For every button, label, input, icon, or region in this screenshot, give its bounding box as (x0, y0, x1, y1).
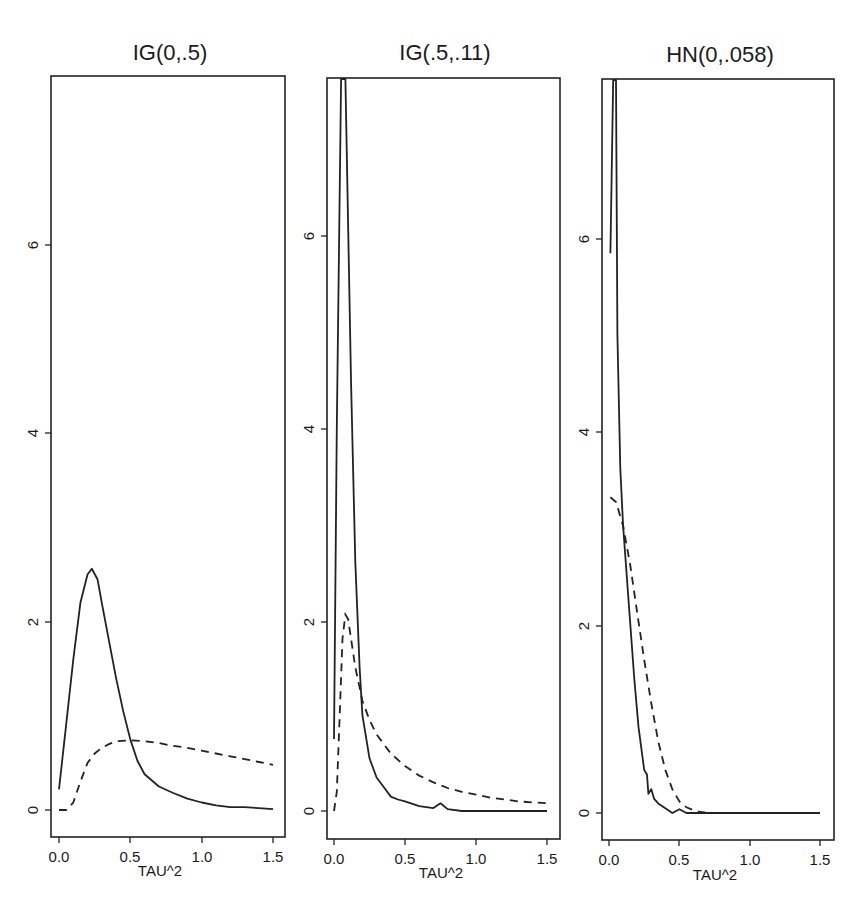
posterior-solid-line (59, 569, 273, 809)
y-axis: 0 2 4 6 (24, 241, 51, 814)
plot-frame (327, 78, 560, 839)
x-axis-label: TAU^2 (693, 866, 737, 883)
y-tick-label: 0 (575, 809, 592, 817)
panel-ig-05-011: IG(.5,.11) 0 2 4 6 0.0 0.5 1.0 1.5 TAU^2 (300, 40, 560, 881)
panel-hn-0-058: HN(0,.058) 0 2 4 6 0.0 0.5 1.0 1.5 TAU^2 (575, 42, 834, 883)
x-axis: 0.0 0.5 1.0 1.5 TAU^2 (324, 839, 558, 881)
panel-title: IG(.5,.11) (399, 40, 490, 65)
plot-frame (51, 76, 285, 837)
plot-frame (602, 79, 834, 840)
posterior-solid-line (610, 80, 820, 813)
x-tick-label: 1.5 (263, 848, 284, 865)
panel-title: HN(0,.058) (666, 42, 774, 67)
posterior-solid-line (334, 79, 547, 811)
figure-canvas: IG(0,.5) 0 2 4 6 0.0 0.5 1.0 1.5 TAU^2 I… (0, 0, 860, 914)
y-tick-label: 2 (24, 618, 41, 626)
x-tick-label: 1.0 (740, 851, 761, 868)
y-tick-label: 4 (300, 425, 317, 433)
y-tick-label: 6 (300, 232, 317, 240)
y-axis: 0 2 4 6 (575, 235, 602, 817)
x-tick-label: 1.0 (192, 848, 213, 865)
x-tick-label: 1.5 (810, 851, 831, 868)
y-tick-label: 4 (575, 428, 592, 436)
prior-dashed-line (59, 740, 273, 810)
x-tick-label: 1.5 (537, 850, 558, 867)
y-tick-label: 0 (24, 806, 41, 814)
panel-title: IG(0,.5) (133, 40, 208, 65)
prior-dashed-line (334, 615, 547, 811)
y-tick-label: 2 (300, 618, 317, 626)
x-tick-label: 0.0 (49, 848, 70, 865)
y-tick-label: 4 (24, 429, 41, 437)
y-tick-label: 0 (300, 807, 317, 815)
prior-dashed-line (610, 497, 820, 813)
x-tick-label: 0.5 (395, 850, 416, 867)
panel-ig-0-05: IG(0,.5) 0 2 4 6 0.0 0.5 1.0 1.5 TAU^2 (24, 40, 285, 879)
y-tick-label: 6 (24, 241, 41, 249)
x-tick-label: 0.0 (599, 851, 620, 868)
x-axis-label: TAU^2 (419, 864, 463, 881)
x-tick-label: 0.0 (324, 850, 345, 867)
y-tick-label: 6 (575, 235, 592, 243)
x-axis-label: TAU^2 (138, 862, 182, 879)
x-axis: 0.0 0.5 1.0 1.5 TAU^2 (599, 840, 831, 883)
x-tick-label: 1.0 (466, 850, 487, 867)
y-tick-label: 2 (575, 622, 592, 630)
y-axis: 0 2 4 6 (300, 232, 327, 815)
x-tick-label: 0.5 (669, 851, 690, 868)
x-axis: 0.0 0.5 1.0 1.5 TAU^2 (49, 837, 284, 879)
